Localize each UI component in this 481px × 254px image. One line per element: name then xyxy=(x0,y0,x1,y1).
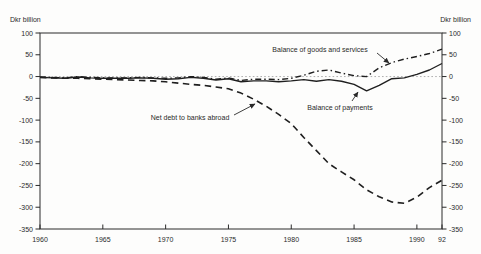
annotation-balance-of-payments: Balance of payments xyxy=(307,104,373,112)
y-tick-label-left: -150 xyxy=(19,138,33,145)
balance-of-payments-chart: 100100505000-50-50-100-100-150-150-200-2… xyxy=(0,0,481,254)
x-tick-label: 1965 xyxy=(95,236,111,243)
y-tick-label-right: -150 xyxy=(449,138,463,145)
y-tick-label-left: 50 xyxy=(25,51,33,58)
x-tick-label: 1970 xyxy=(158,236,174,243)
y-tick-label-right: -250 xyxy=(449,182,463,189)
units-label-left: Dkr billion xyxy=(10,16,41,23)
x-tick-label: 1990 xyxy=(409,236,425,243)
x-tick-label: 1960 xyxy=(32,236,48,243)
data-series-lines xyxy=(40,49,442,203)
axis-ticks: 100100505000-50-50-100-100-150-150-200-2… xyxy=(19,30,463,244)
y-tick-label-right: 100 xyxy=(449,30,461,37)
x-tick-label: 1975 xyxy=(221,236,237,243)
plot-frame xyxy=(40,33,442,229)
annotation-arrow-1 xyxy=(352,92,358,101)
chart-canvas: 100100505000-50-50-100-100-150-150-200-2… xyxy=(0,0,481,254)
y-tick-label-left: 100 xyxy=(21,30,33,37)
annotation-net-debt-banks-abroad: Net debt to banks abroad xyxy=(151,114,230,121)
y-tick-label-left: 0 xyxy=(29,73,33,80)
y-tick-label-left: -250 xyxy=(19,182,33,189)
x-tick-label: 1980 xyxy=(283,236,299,243)
y-tick-label-right: -200 xyxy=(449,160,463,167)
y-tick-label-left: -300 xyxy=(19,204,33,211)
y-tick-label-right: -50 xyxy=(449,95,459,102)
y-tick-label-right: 0 xyxy=(449,73,453,80)
series-line-1 xyxy=(40,64,442,91)
x-tick-label: 1985 xyxy=(346,236,362,243)
y-tick-label-right: -350 xyxy=(449,226,463,233)
y-tick-label-left: -350 xyxy=(19,226,33,233)
series-line-0 xyxy=(40,49,442,80)
y-tick-label-left: -100 xyxy=(19,117,33,124)
annotation-balance-goods-services: Balance of goods and services xyxy=(272,46,368,54)
y-tick-label-right: -100 xyxy=(449,117,463,124)
annotation-arrow-0 xyxy=(377,53,389,63)
y-tick-label-left: -50 xyxy=(23,95,33,102)
units-label-right: Dkr billion xyxy=(440,16,471,23)
y-tick-label-right: 50 xyxy=(449,51,457,58)
x-tick-label: 92 xyxy=(438,236,446,243)
y-tick-label-right: -300 xyxy=(449,204,463,211)
series-line-2 xyxy=(40,77,442,203)
annotation-arrow-2 xyxy=(234,104,255,115)
plot-border xyxy=(40,33,442,229)
y-tick-label-left: -200 xyxy=(19,160,33,167)
